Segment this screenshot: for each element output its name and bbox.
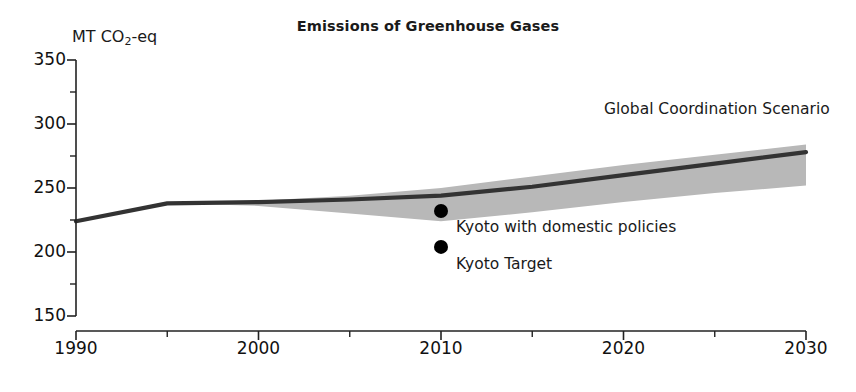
- uncertainty-band-group: [167, 144, 806, 221]
- kyoto-with-domestic-policies-marker[interactable]: [434, 204, 448, 218]
- plot-area: [0, 0, 856, 392]
- uncertainty-band: [167, 144, 806, 221]
- data-points-group: [434, 204, 448, 254]
- kyoto-target-marker[interactable]: [434, 240, 448, 254]
- greenhouse-gas-emissions-chart: Emissions of Greenhouse Gases MT CO2-eq …: [0, 0, 856, 392]
